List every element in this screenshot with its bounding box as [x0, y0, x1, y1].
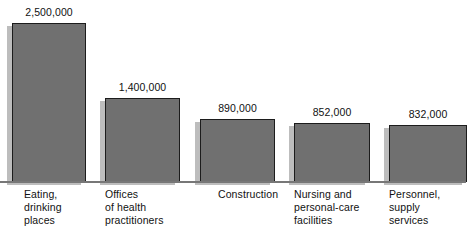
- bar-construction[interactable]: 890,000: [200, 119, 275, 182]
- bar-personnel-supply-services[interactable]: 832,000: [389, 125, 467, 182]
- category-label-line: Nursing and: [294, 188, 360, 201]
- category-label-eating-drinking-places: Eating, drinking places: [24, 188, 62, 228]
- category-label-nursing-and-personal-care-facilities: Nursing and personal-care facilities: [294, 188, 360, 228]
- bar-body: [200, 119, 275, 182]
- category-label-line: practitioners: [105, 214, 164, 227]
- category-label-line: Eating,: [24, 188, 62, 201]
- category-label-line: facilities: [294, 214, 360, 227]
- bar-eating-drinking-places[interactable]: 2,500,000: [12, 23, 86, 182]
- bar-value-label: 2,500,000: [25, 6, 73, 18]
- category-label-line: drinking: [24, 201, 62, 214]
- category-label-line: Personnel,: [389, 188, 440, 201]
- bar-body: [12, 23, 86, 182]
- category-label-offices-of-health-practitioners: Offices of health practitioners: [105, 188, 164, 228]
- x-axis-category-labels: Eating, drinking places Offices of healt…: [0, 188, 466, 230]
- category-label-line: personal-care: [294, 201, 360, 214]
- category-label-line: of health: [105, 201, 164, 214]
- chart-plot-area: 2,500,000 1,400,000 890,000 852,000 832,…: [0, 0, 466, 182]
- category-label-line: Offices: [105, 188, 164, 201]
- bar-value-label: 852,000: [313, 106, 352, 118]
- bar-value-label: 890,000: [218, 102, 257, 114]
- bar-body: [389, 125, 467, 182]
- bar-value-label: 1,400,000: [119, 81, 167, 93]
- category-label-line: Construction: [218, 188, 278, 201]
- category-label-line: services: [389, 214, 440, 227]
- bar-value-label: 832,000: [409, 108, 448, 120]
- bar-body: [294, 123, 370, 182]
- category-label-line: places: [24, 214, 62, 227]
- category-label-construction: Construction: [218, 188, 278, 201]
- category-label-line: supply: [389, 201, 440, 214]
- category-label-personnel-supply-services: Personnel, supply services: [389, 188, 440, 228]
- bar-body: [105, 98, 180, 182]
- bar-nursing-and-personal-care-facilities[interactable]: 852,000: [294, 123, 370, 182]
- bar-offices-of-health-practitioners[interactable]: 1,400,000: [105, 98, 180, 182]
- x-axis-line: [0, 181, 466, 183]
